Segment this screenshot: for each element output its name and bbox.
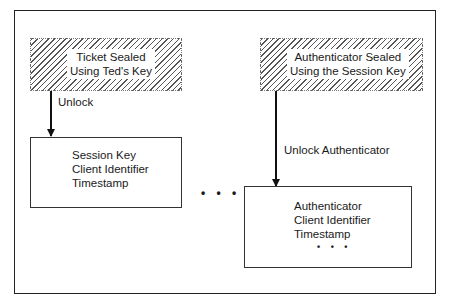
sealed-authenticator-label: Authenticator Sealed Using the Session K… xyxy=(287,49,409,79)
unlock-arrow xyxy=(50,91,52,136)
sealed-authenticator-box: Authenticator Sealed Using the Session K… xyxy=(260,38,423,91)
authenticator-ellipsis: • • • xyxy=(317,242,351,252)
ticket-item: Timestamp xyxy=(72,176,149,190)
ticket-item: Client Identifier xyxy=(72,162,149,176)
authenticator-item: Timestamp xyxy=(294,227,371,241)
authenticator-item: Client Identifier xyxy=(294,213,371,227)
ticket-contents-box: Session Key Client Identifier Timestamp xyxy=(30,137,182,208)
authenticator-item: Authenticator xyxy=(294,199,371,213)
sealed-ticket-box: Ticket Sealed Using Ted's Key xyxy=(30,38,182,91)
authenticator-contents-box: Authenticator Client Identifier Timestam… xyxy=(244,186,412,268)
ticket-item: Session Key xyxy=(72,148,149,162)
sealed-ticket-label: Ticket Sealed Using Ted's Key xyxy=(67,49,155,79)
middle-ellipsis: • • • xyxy=(201,186,240,200)
unlock-authenticator-arrow xyxy=(275,91,277,186)
unlock-label: Unlock xyxy=(58,96,93,108)
unlock-authenticator-label: Unlock Authenticator xyxy=(284,144,389,156)
